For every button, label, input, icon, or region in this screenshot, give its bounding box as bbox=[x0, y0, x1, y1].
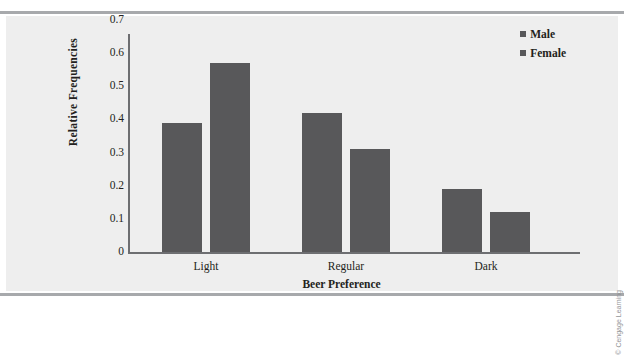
legend-swatch-icon bbox=[520, 50, 526, 56]
bar-regular-male bbox=[302, 113, 342, 252]
bar-light-female bbox=[210, 63, 250, 252]
figure-bottom-rule bbox=[0, 293, 624, 296]
legend-item-female: Female bbox=[520, 47, 566, 59]
y-tick-label: 0 bbox=[90, 246, 124, 258]
y-tick-label: 0.2 bbox=[90, 180, 124, 192]
legend-label: Male bbox=[530, 28, 555, 40]
bar-regular-female bbox=[350, 149, 390, 252]
y-axis-title: Relative Frequencies bbox=[67, 17, 79, 167]
y-tick-label: 0.5 bbox=[90, 81, 124, 93]
y-axis-tick-labels: 00.10.20.30.40.50.60.7 bbox=[84, 20, 124, 252]
chart-legend: MaleFemale bbox=[520, 28, 566, 66]
legend-swatch-icon bbox=[520, 31, 526, 37]
y-tick-label: 0.4 bbox=[90, 114, 124, 126]
x-tick-label: Light bbox=[136, 260, 276, 272]
bar-group bbox=[302, 20, 390, 252]
y-tick-label: 0.7 bbox=[90, 14, 124, 26]
bar-group bbox=[162, 20, 250, 252]
y-tick-label: 0.3 bbox=[90, 147, 124, 159]
bar-group bbox=[442, 20, 530, 252]
bar-light-male bbox=[162, 123, 202, 252]
bar-dark-male bbox=[442, 189, 482, 252]
x-axis-line bbox=[128, 252, 580, 254]
copyright-credit: © Cengage Learning bbox=[615, 290, 622, 355]
bar-dark-female bbox=[490, 212, 530, 252]
legend-item-male: Male bbox=[520, 28, 566, 40]
x-tick-label: Regular bbox=[276, 260, 416, 272]
plot-panel: 00.10.20.30.40.50.60.7 Relative Frequenc… bbox=[6, 16, 618, 291]
y-tick-label: 0.6 bbox=[90, 47, 124, 59]
legend-label: Female bbox=[530, 47, 566, 59]
y-tick-label: 0.1 bbox=[90, 213, 124, 225]
x-tick-label: Dark bbox=[416, 260, 556, 272]
x-axis-title: Beer Preference bbox=[129, 278, 554, 290]
chart-plot-area bbox=[129, 20, 554, 252]
